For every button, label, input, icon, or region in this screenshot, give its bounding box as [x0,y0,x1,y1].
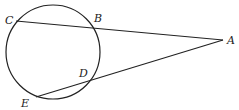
secant-line-ca [16,21,223,40]
point-label-b: B [93,12,102,25]
point-label-e: E [20,97,29,110]
point-label-a: A [226,34,235,47]
secant-diagram: A B C D E [0,0,239,110]
point-label-d: D [78,67,88,80]
secant-line-ea [36,40,223,97]
circle [6,5,100,99]
point-label-c: C [5,14,14,27]
